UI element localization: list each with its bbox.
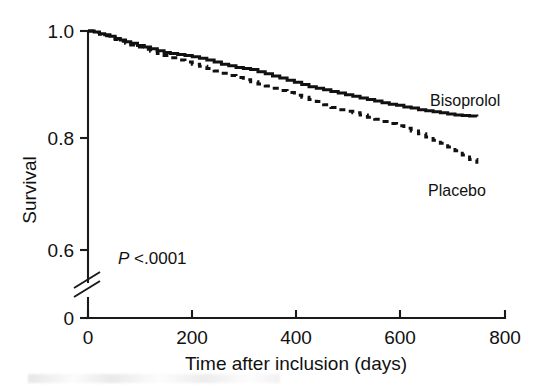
y-tick-label-1.0: 1.0 <box>48 21 74 42</box>
y-tick-label-0.6: 0.6 <box>48 240 74 261</box>
p-value-symbol: P <box>118 249 130 268</box>
survival-curve-figure: 1.0 0.8 0.6 0 0 200 400 600 800 Time aft… <box>0 0 541 386</box>
survival-curve-placebo <box>88 31 477 164</box>
x-tick-label-800: 800 <box>489 327 521 348</box>
chart-canvas: 1.0 0.8 0.6 0 0 200 400 600 800 Time aft… <box>0 0 541 386</box>
series-label-placebo: Placebo <box>428 182 486 199</box>
x-tick-label-200: 200 <box>176 327 208 348</box>
y-tick-labels: 1.0 0.8 0.6 0 <box>48 21 74 329</box>
x-axis-group <box>88 310 505 318</box>
x-tick-label-400: 400 <box>280 327 312 348</box>
p-value-number: <.0001 <box>129 249 186 268</box>
y-axis-group <box>74 31 100 318</box>
x-tick-label-600: 600 <box>384 327 416 348</box>
y-tick-label-0: 0 <box>63 308 74 329</box>
y-axis-title: Survival <box>19 156 40 224</box>
x-axis-title: Time after inclusion (days) <box>185 353 407 374</box>
x-tick-labels: 0 200 400 600 800 <box>83 327 521 348</box>
series-label-bisoprolol: Bisoprolol <box>430 92 500 109</box>
p-value-annotation: P <.0001 <box>118 249 187 268</box>
x-tick-label-0: 0 <box>83 327 94 348</box>
y-tick-label-0.8: 0.8 <box>48 128 74 149</box>
survival-curve-bisoprolol <box>88 31 477 117</box>
